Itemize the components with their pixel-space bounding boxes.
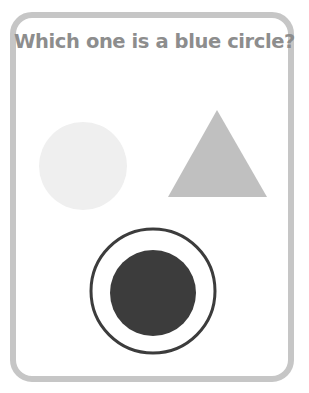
triangle-icon: [168, 110, 267, 197]
option-gray-triangle[interactable]: [168, 110, 267, 197]
answer-options: [0, 0, 309, 393]
option-light-circle[interactable]: [39, 122, 127, 210]
option-dark-circle[interactable]: [91, 229, 215, 353]
circle-icon: [110, 250, 196, 336]
circle-icon: [39, 122, 127, 210]
